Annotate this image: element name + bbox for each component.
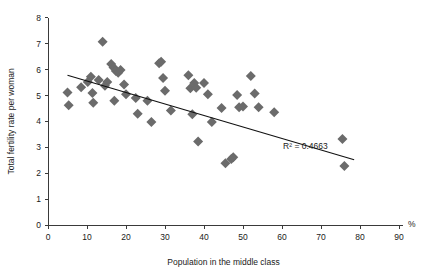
data-point [158,73,168,83]
chart-canvas: 012345678 0102030405060708090 R² = 0.466… [0,0,448,275]
scatter-chart: 012345678 0102030405060708090 R² = 0.466… [0,0,448,275]
data-point [119,80,129,90]
x-axis-unit-label: % [408,219,416,229]
data-point [269,107,279,117]
data-point [232,90,242,100]
x-axis-title: Population in the middle class [167,257,279,267]
data-point [146,117,156,127]
data-point [121,89,131,99]
data-point [109,96,119,106]
data-point [246,71,256,81]
x-tick-label: 10 [82,232,92,242]
x-tick-label: 50 [238,232,248,242]
data-point [88,98,98,108]
r-squared-annotation: R² = 0.4663 [283,141,328,151]
y-tick-label: 3 [36,142,41,152]
y-axis-title: Total fertility rate per woman [6,68,16,175]
data-point [339,161,349,171]
data-point [193,137,203,147]
data-point [98,37,108,47]
data-point [63,87,73,97]
y-axis: 012345678 [36,13,48,230]
data-point [64,100,74,110]
x-tick-label: 40 [199,232,209,242]
data-point [87,88,97,98]
y-tick-label: 1 [36,194,41,204]
x-tick-label: 70 [316,232,326,242]
y-tick-label: 8 [36,13,41,23]
data-point [337,134,347,144]
x-tick-label: 20 [121,232,131,242]
data-point [217,103,227,113]
x-tick-label: 30 [160,232,170,242]
x-axis: 0102030405060708090 [46,225,404,242]
data-point [183,70,193,80]
x-tick-label: 0 [46,232,51,242]
y-tick-label: 6 [36,65,41,75]
y-tick-label: 7 [36,39,41,49]
x-tick-label: 90 [394,232,404,242]
y-tick-label: 0 [36,220,41,230]
x-tick-label: 60 [277,232,287,242]
data-point [203,89,213,99]
x-tick-label: 80 [355,232,365,242]
data-point [142,96,152,106]
data-point [254,102,264,112]
y-tick-label: 2 [36,168,41,178]
data-points [63,37,350,171]
data-point [160,86,170,96]
data-point [250,88,260,98]
y-tick-label: 4 [36,116,41,126]
y-tick-label: 5 [36,91,41,101]
data-point [199,78,209,88]
data-point [133,109,143,119]
